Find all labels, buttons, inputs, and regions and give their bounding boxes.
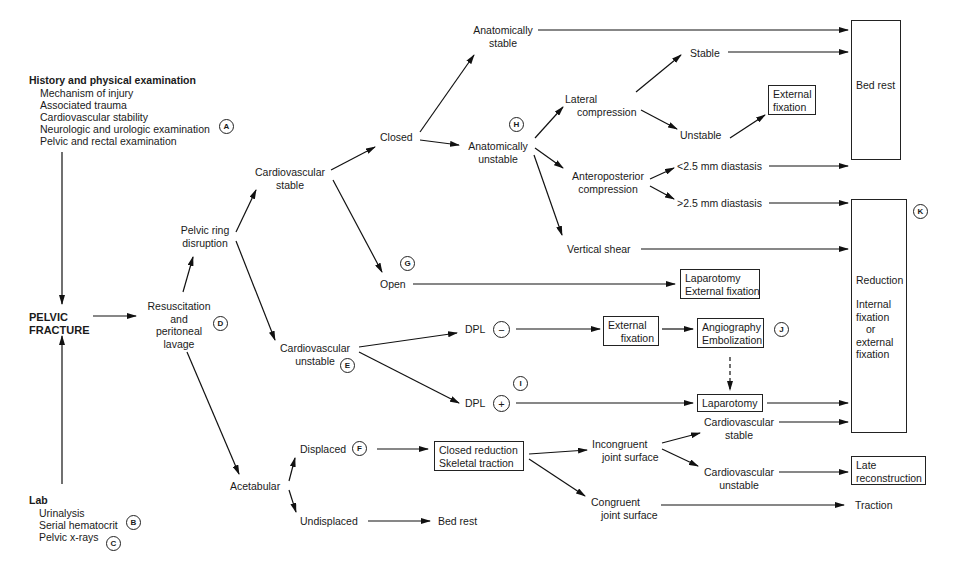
open-node: Open bbox=[380, 278, 406, 291]
dpl-negative-label: DPL bbox=[465, 323, 485, 336]
external-fixation-box-2: External fixation bbox=[603, 316, 659, 346]
text-line: Closed reduction bbox=[439, 444, 519, 457]
text-line: compression bbox=[565, 106, 637, 119]
pelvic-ring-node: Pelvic ring disruption bbox=[170, 224, 240, 249]
lab-item: Urinalysis bbox=[39, 507, 85, 520]
lab-item: Serial hematocrit bbox=[39, 519, 118, 532]
text-line: Congruent bbox=[591, 496, 658, 509]
angiography-embolization-box: Angiography Embolization bbox=[697, 318, 764, 348]
external-fixation-box: External fixation bbox=[768, 85, 816, 115]
text-line: Anatomically bbox=[463, 140, 533, 153]
reduction-options: Internal fixation or external fixation bbox=[856, 298, 893, 361]
text-line: compression bbox=[566, 183, 650, 196]
vertical-shear-node: Vertical shear bbox=[567, 243, 631, 256]
pelvic-fracture-algorithm: History and physical examination Mechani… bbox=[0, 0, 962, 573]
text-line: Pelvic ring bbox=[170, 224, 240, 237]
marker-e: E bbox=[340, 358, 355, 373]
history-item: Cardiovascular stability bbox=[40, 111, 148, 124]
text-line: unstable bbox=[463, 153, 533, 166]
text-line: fixation bbox=[856, 311, 893, 324]
cv-stable-node: Cardiovascular stable bbox=[249, 166, 331, 191]
marker-g: G bbox=[400, 256, 415, 271]
text-line: External fixation bbox=[685, 285, 755, 298]
text-line: reconstruction bbox=[856, 472, 921, 485]
text-line: Cardiovascular bbox=[274, 342, 356, 355]
reduction-box: Reduction Internal fixation or external … bbox=[851, 199, 907, 433]
text-line: fixation bbox=[608, 332, 654, 345]
late-reconstruction-box: Late reconstruction bbox=[851, 456, 926, 485]
root-node: PELVIC FRACTURE bbox=[29, 311, 90, 336]
marker-h: H bbox=[509, 117, 524, 132]
undisplaced-node: Undisplaced bbox=[300, 515, 358, 528]
gt-diastasis-node: >2.5 mm diastasis bbox=[677, 197, 762, 210]
anat-stable-node: Anatomically stable bbox=[468, 24, 538, 49]
text-line: lavage bbox=[143, 338, 215, 351]
text-line: disruption bbox=[170, 237, 240, 250]
text-line: Embolization bbox=[702, 334, 759, 347]
history-heading: History and physical examination bbox=[29, 74, 196, 87]
text-line: Cardiovascular bbox=[249, 166, 331, 179]
text-line: fixation bbox=[856, 348, 893, 361]
history-item: Associated trauma bbox=[40, 99, 127, 112]
plus-sign-marker: + bbox=[493, 395, 510, 412]
text-line: Cardiovascular bbox=[700, 416, 778, 429]
ap-compression-node: Anteroposterior compression bbox=[566, 170, 650, 195]
lab-item: Pelvic x-rays bbox=[39, 531, 99, 544]
minus-sign-marker: − bbox=[493, 321, 510, 338]
text-line: Bed rest bbox=[856, 79, 895, 92]
text-line: and bbox=[143, 313, 215, 326]
lateral-compression-node: Lateral compression bbox=[565, 93, 637, 118]
text-line: or bbox=[856, 323, 893, 336]
text-line: Anteroposterior bbox=[566, 170, 650, 183]
text-line: Lateral bbox=[565, 93, 637, 106]
text-line: Internal bbox=[856, 298, 893, 311]
text-line: stable bbox=[468, 37, 538, 50]
marker-b: B bbox=[126, 515, 141, 530]
marker-d: D bbox=[213, 316, 228, 331]
closed-node: Closed bbox=[380, 131, 413, 144]
congruent-node: Congruent joint surface bbox=[591, 496, 658, 521]
history-item: Neurologic and urologic examination bbox=[40, 123, 210, 136]
text-line: external bbox=[856, 336, 893, 349]
text-line: stable bbox=[249, 179, 331, 192]
marker-c: C bbox=[106, 536, 121, 551]
lab-heading: Lab bbox=[29, 494, 48, 507]
text-line: Cardiovascular bbox=[700, 466, 778, 479]
text-line: joint surface bbox=[591, 509, 658, 522]
history-item: Mechanism of injury bbox=[40, 87, 133, 100]
root-line2: FRACTURE bbox=[29, 324, 90, 337]
marker-a: A bbox=[219, 119, 234, 134]
dpl-positive-label: DPL bbox=[465, 397, 485, 410]
displaced-node: Displaced bbox=[300, 443, 346, 456]
text-line: unstable bbox=[700, 479, 778, 492]
text-line: Skeletal traction bbox=[439, 457, 519, 470]
stable-node: Stable bbox=[690, 47, 720, 60]
laparotomy-box: Laparotomy bbox=[697, 394, 763, 412]
text-line: Angiography bbox=[702, 321, 759, 334]
text-line: Laparotomy bbox=[685, 272, 755, 285]
text-line: Late bbox=[856, 459, 921, 472]
text-line: Resuscitation bbox=[143, 300, 215, 313]
text-line: peritoneal bbox=[143, 325, 215, 338]
marker-i: I bbox=[513, 376, 528, 391]
text-line: External bbox=[608, 319, 654, 332]
closed-reduction-box: Closed reduction Skeletal traction bbox=[434, 441, 524, 471]
text-line: Incongruent bbox=[592, 438, 659, 451]
unstable-node: Unstable bbox=[680, 129, 721, 142]
marker-j: J bbox=[774, 322, 789, 337]
text-line: Anatomically bbox=[468, 24, 538, 37]
text-line: stable bbox=[700, 429, 778, 442]
cv-unstable-2-node: Cardiovascular unstable bbox=[700, 466, 778, 491]
resuscitation-node: Resuscitation and peritoneal lavage bbox=[143, 300, 215, 350]
cv-stable-2-node: Cardiovascular stable bbox=[700, 416, 778, 441]
marker-f: F bbox=[352, 441, 367, 456]
lt-diastasis-node: <2.5 mm diastasis bbox=[677, 160, 762, 173]
text-line: joint surface bbox=[592, 451, 659, 464]
bed-rest-text: Bed rest bbox=[438, 515, 477, 528]
text-line: External bbox=[773, 88, 811, 101]
acetabular-node: Acetabular bbox=[230, 480, 280, 493]
bed-rest-box: Bed rest bbox=[851, 20, 901, 160]
incongruent-node: Incongruent joint surface bbox=[592, 438, 659, 463]
laparotomy-external-fixation-box: Laparotomy External fixation bbox=[680, 269, 760, 299]
history-item: Pelvic and rectal examination bbox=[40, 135, 177, 148]
